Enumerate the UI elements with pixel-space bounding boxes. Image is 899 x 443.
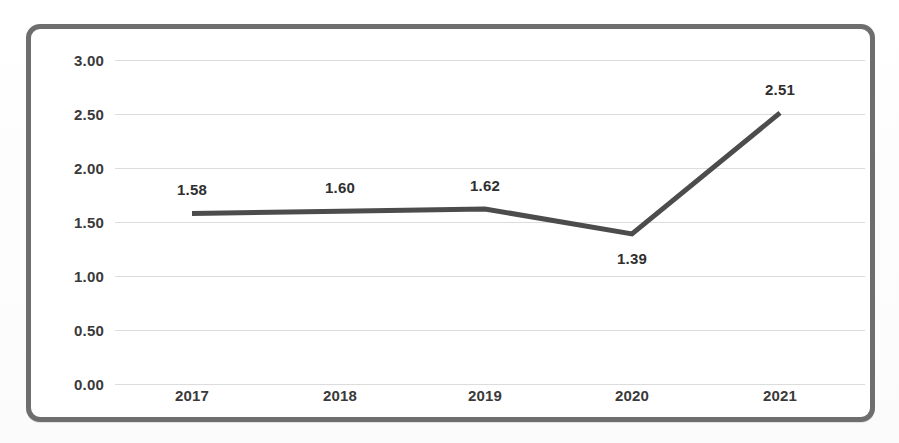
x-tick-label-2019: 2019 [430, 387, 540, 404]
series-polyline [192, 113, 780, 234]
chart-frame: 3.00 2.50 2.00 1.50 1.00 0.50 0.00 1.58 … [26, 24, 875, 422]
data-label-2017: 1.58 [147, 181, 237, 198]
x-tick-label-2017: 2017 [137, 387, 247, 404]
x-tick-label-2020: 2020 [577, 387, 687, 404]
plot-area: 3.00 2.50 2.00 1.50 1.00 0.50 0.00 1.58 … [31, 29, 870, 417]
x-tick-label-2018: 2018 [285, 387, 395, 404]
data-label-2019: 1.62 [440, 177, 530, 194]
data-label-2018: 1.60 [295, 179, 385, 196]
data-label-2020: 1.39 [587, 249, 677, 266]
data-label-2021: 2.51 [735, 80, 825, 97]
page-background: 3.00 2.50 2.00 1.50 1.00 0.50 0.00 1.58 … [0, 0, 899, 443]
x-tick-label-2021: 2021 [725, 387, 835, 404]
